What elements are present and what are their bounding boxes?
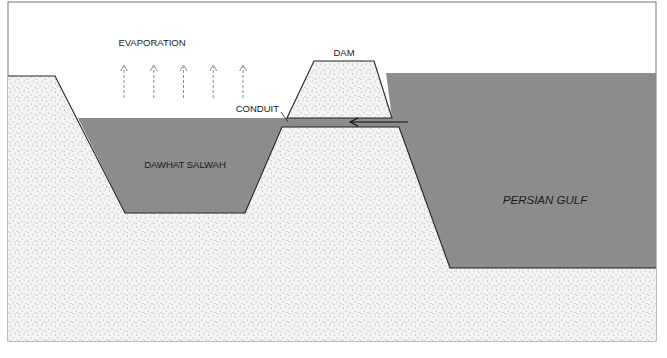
- dam-label: DAM: [333, 47, 354, 58]
- dawhat-salwah-label: DAWHAT SALWAH: [144, 159, 226, 170]
- evaporation-label: EVAPORATION: [118, 37, 185, 48]
- persian-gulf-label: PERSIAN GULF: [503, 194, 588, 206]
- conduit-label: CONDUIT: [236, 103, 279, 114]
- diagram-canvas: EVAPORATION DAM CONDUIT DAWHAT SALWAH PE…: [0, 0, 667, 358]
